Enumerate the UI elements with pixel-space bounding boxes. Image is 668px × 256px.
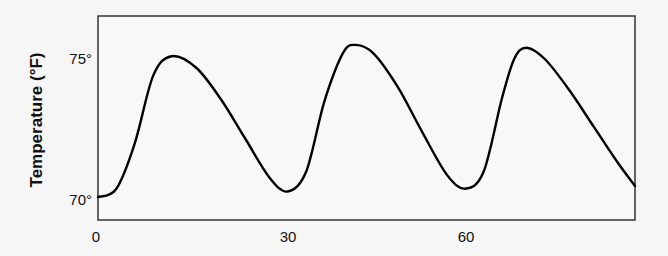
plot-frame xyxy=(98,16,635,220)
y-tick-label: 75° xyxy=(69,50,92,67)
y-axis-ticks: 70°75° xyxy=(69,50,92,208)
temperature-line-chart: 70°75° 03060 Temperature (°F) xyxy=(0,0,668,256)
y-tick-label: 70° xyxy=(69,191,92,208)
x-axis-ticks: 03060 xyxy=(92,228,475,245)
y-axis-title: Temperature (°F) xyxy=(27,53,46,188)
x-tick-label: 30 xyxy=(280,228,297,245)
x-tick-label: 0 xyxy=(92,228,100,245)
x-tick-label: 60 xyxy=(458,228,475,245)
